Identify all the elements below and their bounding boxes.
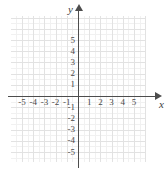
x-tick-label: 2 xyxy=(95,98,106,107)
y-tick-label: 2 xyxy=(63,69,75,78)
x-tick-label: -4 xyxy=(28,98,39,107)
y-tick-label: -1 xyxy=(63,103,75,112)
y-tick-label: -5 xyxy=(63,148,75,157)
x-tick-label: 4 xyxy=(117,98,128,107)
x-tick-label: 1 xyxy=(84,98,95,107)
x-tick-label: 3 xyxy=(106,98,117,107)
y-axis-arrow-icon xyxy=(75,4,83,11)
x-tick-label: 5 xyxy=(129,98,140,107)
coordinate-plane-figure: x y -5-4-3-2-112345 54321-1-2-3-4-5 xyxy=(0,0,168,174)
y-tick-label: -3 xyxy=(63,125,75,134)
x-tick-label: -2 xyxy=(50,98,61,107)
y-axis-line xyxy=(78,8,79,168)
y-tick-label: 1 xyxy=(63,80,75,89)
x-tick-label: -5 xyxy=(17,98,28,107)
x-axis-label: x xyxy=(159,99,164,110)
y-tick-label: 3 xyxy=(63,58,75,67)
y-tick-label: -4 xyxy=(63,136,75,145)
y-tick-label: 5 xyxy=(63,36,75,45)
y-tick-label: -2 xyxy=(63,114,75,123)
x-tick-label: -3 xyxy=(39,98,50,107)
y-tick-label: 4 xyxy=(63,47,75,56)
y-axis-label: y xyxy=(68,4,73,15)
